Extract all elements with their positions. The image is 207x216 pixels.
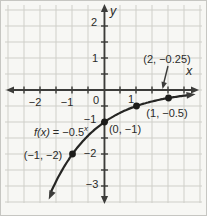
- y-tick-label-2: 2: [91, 17, 97, 28]
- point-label-neg1-neg2: (−1, −2): [24, 150, 63, 161]
- point-label-2-neg025: (2, −0.25): [143, 54, 190, 65]
- point-marker: [101, 119, 108, 126]
- graph-figure: y x 2 1 −1 −2 −3 −2 −1 0 1 (2, −0.25) (1…: [0, 0, 207, 216]
- x-tick-label-1: 1: [128, 94, 134, 105]
- y-tick-label-neg1: −1: [84, 114, 97, 125]
- function-equals: =: [50, 126, 63, 138]
- x-axis-label: x: [186, 65, 192, 78]
- x-tick-label-0: 0: [93, 95, 99, 106]
- y-tick-label-neg3: −3: [86, 179, 99, 190]
- x-tick-label-neg1: −1: [61, 97, 74, 108]
- point-marker: [133, 103, 140, 110]
- point-label-0-neg1: (0, −1): [109, 124, 141, 135]
- point-callout-arrow: [161, 66, 168, 89]
- function-name: f(x): [34, 126, 50, 138]
- y-axis-label: y: [110, 5, 116, 18]
- y-tick-label-neg2: −2: [84, 148, 97, 159]
- function-exponent: x: [84, 124, 88, 133]
- y-tick-label-1: 1: [92, 53, 98, 64]
- point-marker: [165, 95, 172, 102]
- function-base: −0.5: [62, 126, 84, 138]
- point-marker: [69, 151, 76, 158]
- point-label-1-neg05: (1, −0.5): [146, 108, 187, 119]
- x-tick-label-neg2: −2: [29, 97, 42, 108]
- function-equation-label: f(x) = −0.5x: [34, 127, 88, 138]
